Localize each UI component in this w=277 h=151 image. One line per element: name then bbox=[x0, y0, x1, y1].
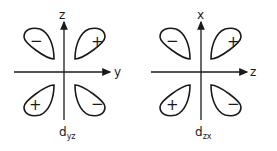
horizontal-axis-label: z bbox=[250, 65, 256, 79]
orbital-label: dyz bbox=[59, 125, 76, 141]
sign-lower-right: − bbox=[227, 95, 240, 113]
horizontal-axis-label: y bbox=[114, 65, 121, 79]
orbital-label: dzx bbox=[195, 125, 212, 141]
sign-upper-left: − bbox=[166, 32, 179, 50]
sign-lower-left: + bbox=[29, 96, 42, 114]
diagram-dyz: z y − + + − dyz bbox=[14, 8, 121, 141]
sign-upper-left: − bbox=[30, 32, 43, 50]
vertical-axis-label: z bbox=[59, 8, 65, 22]
sign-lower-right: − bbox=[91, 95, 104, 113]
sign-upper-right: + bbox=[91, 33, 104, 51]
vertical-axis-label: x bbox=[197, 8, 204, 22]
sign-lower-left: + bbox=[166, 96, 179, 114]
sign-upper-right: + bbox=[227, 33, 240, 51]
diagram-dzx: x z − + + − dzx bbox=[151, 8, 256, 141]
orbital-diagrams: z y − + + − dyz x z − + + − dzx bbox=[0, 0, 277, 151]
